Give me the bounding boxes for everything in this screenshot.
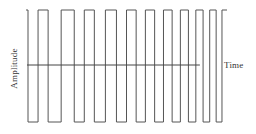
waveform-plot [0,0,256,134]
x-axis-label: Time [224,61,243,70]
waveform-group [26,10,227,122]
square-wave-chirp-trace [26,10,227,122]
y-axis-label: Amplitude [10,39,19,99]
square-wave-chirp-figure: Amplitude Time [0,0,256,134]
